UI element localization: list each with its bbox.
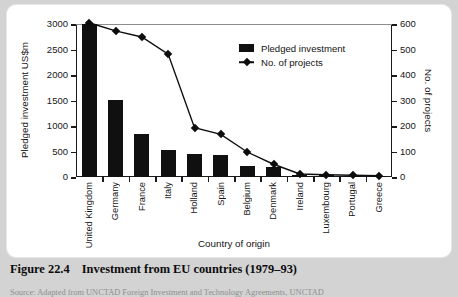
x-axis-category-label: Spain (208, 182, 234, 236)
x-axis-category-label: France (129, 182, 155, 236)
y-axis-left-tick-label: 2500 (47, 45, 68, 55)
figure-title: Investment from EU countries (1979–93) (82, 262, 297, 276)
category-label-text: Luxembourg (321, 182, 331, 234)
y-axis-left-tick-label: 0 (63, 172, 68, 182)
x-axis-category-label: Denmark (260, 182, 286, 236)
y-axis-left-tick-label: 1500 (47, 96, 68, 106)
y-axis-left-tick-label: 500 (52, 147, 68, 157)
x-axis-category-label: Germany (102, 182, 128, 236)
y-axis-right-tick (392, 50, 397, 52)
chart-panel: Pledged investment US$m No. of projects … (7, 5, 451, 257)
y-axis-right-tick-label: 500 (400, 45, 416, 55)
x-axis-category-label: Luxembourg (313, 182, 339, 236)
figure-source-note: Source: Adapted from UNCTAD Foreign Inve… (10, 288, 324, 297)
category-label-text: Holland (189, 182, 199, 214)
category-label-text: Belgium (242, 182, 252, 216)
y-axis-left-tick-label: 3000 (47, 19, 68, 29)
y-axis-right-tick (392, 75, 397, 77)
x-axis-category-label: United Kingdom (76, 182, 102, 236)
y-axis-right-tick (392, 152, 397, 154)
category-label-text: Italy (163, 182, 173, 199)
y-axis-right-tick-label: 300 (400, 96, 416, 106)
legend-item-pledged-investment: Pledged investment (239, 41, 345, 55)
y-axis-right-tick-label: 0 (400, 172, 405, 182)
y-axis-right-tick (392, 126, 397, 128)
y-axis-right-tick-label: 200 (400, 121, 416, 131)
legend-item-no-of-projects: No. of projects (239, 55, 345, 69)
y-axis-right-tick-label: 600 (400, 19, 416, 29)
legend-line-diamond-icon (239, 58, 254, 66)
y-axis-right-tick (392, 101, 397, 103)
category-label-text: Portugal (347, 182, 357, 217)
y-axis-right-tick-label: 100 (400, 147, 416, 157)
y-axis-right-tick (392, 177, 397, 179)
chart-legend: Pledged investment No. of projects (239, 41, 345, 69)
legend-label: Pledged investment (261, 43, 345, 54)
category-label-text: Denmark (268, 182, 278, 220)
x-axis-category-label: Portugal (339, 182, 365, 236)
y-axis-right-tick-label: 400 (400, 70, 416, 80)
x-axis-category-label: Greece (366, 182, 392, 236)
x-axis-title: Country of origin (76, 238, 392, 249)
figure-caption: Figure 22.4 Investment from EU countries… (10, 262, 297, 277)
figure-container: Pledged investment US$m No. of projects … (0, 0, 458, 297)
category-label-text: Greece (374, 182, 384, 213)
x-axis-category-label: Belgium (234, 182, 260, 236)
y-axis-left-tick (71, 177, 76, 179)
x-axis-category-label: Ireland (287, 182, 313, 236)
legend-square-icon (239, 44, 254, 52)
category-label-text: United Kingdom (84, 182, 94, 248)
x-axis-category-label: Italy (155, 182, 181, 236)
y-axis-right-title: No. of projects (423, 24, 434, 177)
category-label-text: Spain (216, 182, 226, 206)
x-axis-category-label: Holland (181, 182, 207, 236)
legend-label: No. of projects (261, 57, 323, 68)
category-label-text: Germany (110, 182, 120, 220)
figure-number: Figure 22.4 (10, 262, 70, 276)
category-label-text: Ireland (295, 182, 305, 210)
y-axis-left-title: Pledged investment US$m (19, 24, 30, 177)
y-axis-right-tick (392, 24, 397, 26)
y-axis-left-tick-label: 1000 (47, 121, 68, 131)
y-axis-left-tick-label: 2000 (47, 70, 68, 80)
category-label-text: France (137, 182, 147, 211)
